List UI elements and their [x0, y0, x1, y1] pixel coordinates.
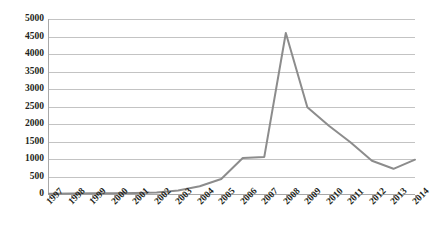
y-axis-tick-labels: 0500100015002000250030003500400045005000	[0, 19, 44, 194]
data-series-line	[49, 19, 415, 194]
y-tick-label-4000: 4000	[2, 49, 44, 59]
y-tick-label-5000: 5000	[2, 14, 44, 24]
y-tick-label-2500: 2500	[2, 102, 44, 112]
plot-area	[49, 19, 415, 194]
y-tick-label-3000: 3000	[2, 84, 44, 94]
y-tick-label-1000: 1000	[2, 154, 44, 164]
x-axis-tick-labels: 1997199819992000200120022003200420052006…	[49, 200, 415, 241]
y-tick-label-3500: 3500	[2, 67, 44, 77]
y-tick-label-4500: 4500	[2, 32, 44, 42]
series-1-polyline	[49, 33, 415, 194]
y-tick-label-2000: 2000	[2, 119, 44, 129]
y-tick-label-1500: 1500	[2, 137, 44, 147]
y-tick-label-0: 0	[2, 189, 44, 199]
y-tick-label-500: 500	[2, 172, 44, 182]
